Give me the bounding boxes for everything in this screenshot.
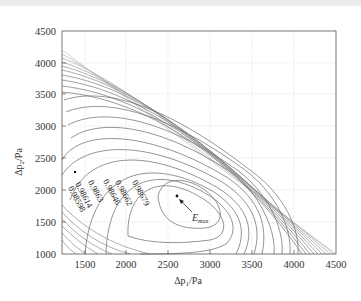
y-tick-2500: 2500 xyxy=(35,153,56,164)
x-tick-3500: 3500 xyxy=(242,259,263,270)
y-tick-labels: 4500 4000 3500 3000 2500 2000 1500 1000 xyxy=(35,26,56,260)
inner-contours xyxy=(62,139,264,254)
contour-chart: 1500 2000 2500 3000 3500 4000 4500 4500 … xyxy=(0,0,361,301)
x-tick-labels: 1500 2000 2500 3000 3500 4000 4500 xyxy=(75,259,347,270)
left-marker-point xyxy=(74,171,76,173)
y-tick-4000: 4000 xyxy=(35,58,56,69)
contour-value-labels: 0.98598 0.98614 0.9863 0.98646 0.98662 0… xyxy=(66,177,152,213)
emax-point xyxy=(176,195,179,198)
x-tick-1500: 1500 xyxy=(75,259,96,270)
x-tick-3000: 3000 xyxy=(200,259,221,270)
y-tick-4500: 4500 xyxy=(35,26,56,37)
x-tick-2500: 2500 xyxy=(158,259,179,270)
y-tick-1000: 1000 xyxy=(35,249,56,260)
x-tick-2000: 2000 xyxy=(116,259,137,270)
x-axis-label: Δp1/Pa xyxy=(174,275,202,288)
y-tick-1500: 1500 xyxy=(35,217,56,228)
x-tick-4000: 4000 xyxy=(284,259,305,270)
y-tick-3000: 3000 xyxy=(35,121,56,132)
x-tick-4500: 4500 xyxy=(326,259,347,270)
emax-label: Emax xyxy=(191,212,208,224)
y-axis-label: Δp2/Pa xyxy=(13,148,26,176)
y-tick-2000: 2000 xyxy=(35,185,56,196)
y-tick-3500: 3500 xyxy=(35,89,56,100)
lower-left-contours xyxy=(62,205,150,254)
